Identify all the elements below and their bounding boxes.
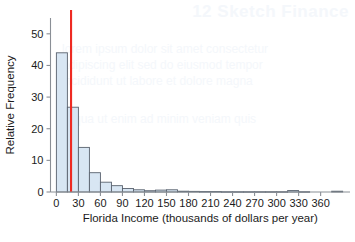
plot-area: 0306090120150180210240270300330360 01020… (0, 0, 355, 242)
x-tick-labels: 0306090120150180210240270300330360 (53, 192, 330, 209)
x-axis-label: Florida Income (thousands of dollars per… (83, 212, 318, 224)
x-tick-label: 60 (94, 197, 106, 209)
x-tick-label: 360 (311, 197, 329, 209)
x-tick-label: 120 (135, 197, 153, 209)
histogram-figure: 12 Sketch Finance lorem ipsum dolor sit … (0, 0, 355, 242)
y-tick-label: 50 (31, 28, 43, 40)
histogram-bar (89, 173, 100, 192)
x-tick-label: 90 (116, 197, 128, 209)
x-tick-label: 30 (72, 197, 84, 209)
x-tick-label: 150 (157, 197, 175, 209)
histogram-bar (100, 182, 111, 192)
histogram-bar (56, 53, 67, 192)
y-axis-label: Relative Frequency (4, 55, 16, 154)
x-tick-label: 240 (223, 197, 241, 209)
y-tick-label: 10 (31, 154, 43, 166)
x-tick-label: 210 (201, 197, 219, 209)
histogram-bar (111, 186, 122, 192)
y-tick-label: 20 (31, 123, 43, 135)
x-tick-label: 330 (289, 197, 307, 209)
axes-group (51, 18, 351, 192)
y-tick-label: 30 (31, 91, 43, 103)
x-tick-label: 270 (245, 197, 263, 209)
x-tick-label: 180 (179, 197, 197, 209)
y-tick-labels: 01020304050 (31, 28, 50, 198)
y-tick-label: 40 (31, 59, 43, 71)
y-tick-label: 0 (37, 186, 43, 198)
histogram-bar (67, 107, 78, 192)
x-tick-label: 0 (53, 197, 59, 209)
x-tick-label: 300 (267, 197, 285, 209)
bars-group (56, 53, 342, 192)
histogram-bar (78, 147, 89, 192)
